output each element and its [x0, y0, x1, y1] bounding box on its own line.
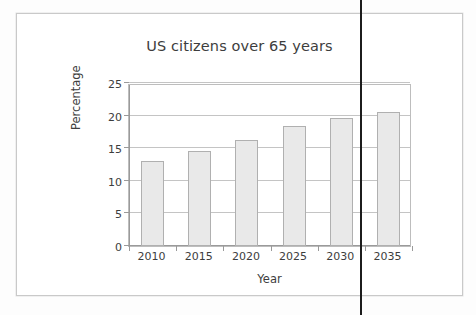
y-tick-label: 5 [96, 208, 122, 221]
x-tick-label: 2020 [223, 250, 269, 263]
figure-frame: US citizens over 65 years Percentage 051… [16, 13, 463, 296]
y-tick-label: 20 [96, 110, 122, 123]
chart-title: US citizens over 65 years [17, 38, 462, 54]
x-tick-label: 2030 [317, 250, 363, 263]
x-tick-label: 2035 [364, 250, 410, 263]
x-axis-title: Year [128, 272, 411, 286]
x-tick-label: 2025 [270, 250, 316, 263]
bar [141, 161, 164, 246]
x-axis-tick-labels: 201020152020202520302035 [128, 250, 411, 268]
x-tick-mark [412, 246, 413, 251]
page-surface: US citizens over 65 years Percentage 051… [0, 0, 476, 315]
bar [377, 112, 400, 246]
y-tick-label: 15 [96, 143, 122, 156]
gridline [129, 82, 410, 83]
y-tick-mark [124, 82, 129, 83]
y-axis-title: Percentage [69, 65, 83, 130]
y-tick-label: 10 [96, 175, 122, 188]
bar [188, 151, 211, 246]
y-tick-label: 25 [96, 78, 122, 91]
bar [283, 126, 306, 246]
scan-spine-line [360, 0, 362, 315]
y-tick-label: 0 [96, 241, 122, 254]
bar [235, 140, 258, 246]
x-tick-label: 2015 [176, 250, 222, 263]
plot-area [128, 84, 411, 247]
bars-layer [129, 85, 410, 246]
y-axis-tick-labels: 0510152025 [94, 84, 122, 247]
x-tick-label: 2010 [129, 250, 175, 263]
bar [330, 118, 353, 246]
